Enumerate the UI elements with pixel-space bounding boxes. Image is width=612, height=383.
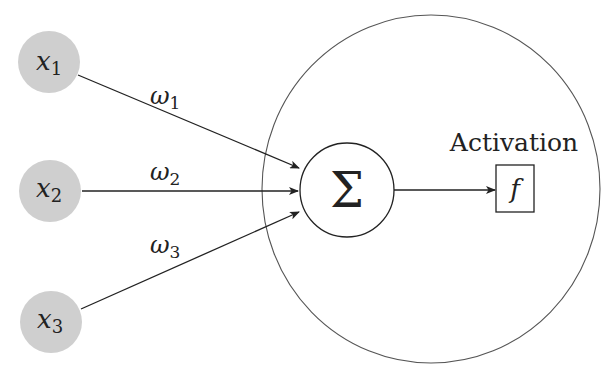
sigma-icon: Σ xyxy=(330,162,364,218)
weight-label-w1: ω1 xyxy=(150,82,180,113)
summation-node: Σ xyxy=(300,143,394,237)
input-x1-subscript: 1 xyxy=(51,58,62,79)
input-x3-symbol: x xyxy=(37,304,52,334)
weight-label-w3: ω3 xyxy=(150,231,180,262)
activation-label: Activation xyxy=(449,128,578,157)
input-node-x2: x2 xyxy=(19,160,81,222)
input-x3-subscript: 3 xyxy=(52,316,63,337)
neuron-diagram: x1 x2 x3 ω1 ω2 ω3 Σ Activation f xyxy=(0,0,612,383)
activation-function-box: f xyxy=(496,165,534,212)
input-node-x1: x1 xyxy=(18,31,80,93)
weight-label-w2: ω2 xyxy=(150,158,180,189)
input-x2-subscript: 2 xyxy=(51,185,62,206)
edge-x1-to-sum xyxy=(78,75,299,168)
input-node-x3: x3 xyxy=(20,291,82,353)
edge-x3-to-sum xyxy=(81,212,299,309)
input-x1-symbol: x xyxy=(36,46,51,76)
input-x2-symbol: x xyxy=(36,173,51,203)
